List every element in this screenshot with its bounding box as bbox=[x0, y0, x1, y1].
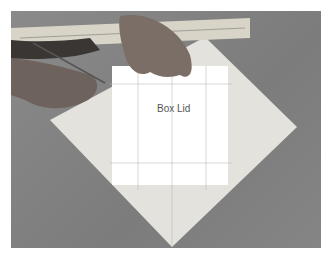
scene-illustration bbox=[11, 11, 321, 248]
box-lid-label: Box Lid bbox=[157, 103, 190, 114]
photo: Box Lid bbox=[11, 11, 321, 248]
